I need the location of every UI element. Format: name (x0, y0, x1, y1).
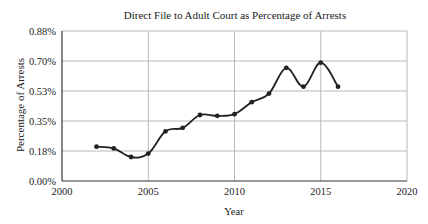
y-axis-ticks: 0.00%0.18%0.35%0.53%0.70%0.88% (29, 26, 56, 187)
x-tick-label: 2020 (397, 186, 418, 197)
x-tick-label: 2005 (138, 186, 159, 197)
data-point-marker (180, 125, 185, 130)
x-tick-label: 2015 (310, 186, 331, 197)
y-tick-label: 0.53% (29, 86, 56, 97)
y-tick-label: 0.35% (29, 116, 56, 127)
gridlines (62, 31, 407, 181)
data-point-marker (129, 155, 134, 160)
y-tick-label: 0.18% (29, 146, 56, 157)
data-point-marker (336, 84, 341, 89)
x-axis-ticks: 20002005201020152020 (52, 186, 418, 197)
data-point-marker (284, 65, 289, 70)
data-point-marker (232, 112, 237, 117)
series-line (97, 63, 339, 158)
data-point-marker (267, 91, 272, 96)
data-point-marker (249, 100, 254, 105)
data-point-marker (146, 151, 151, 156)
y-tick-label: 0.00% (29, 176, 56, 187)
y-tick-label: 0.70% (29, 56, 56, 67)
x-tick-label: 2010 (224, 186, 245, 197)
data-point-marker (163, 129, 168, 134)
data-point-marker (215, 113, 220, 118)
x-tick-label: 2000 (52, 186, 73, 197)
line-chart: 0.00%0.18%0.35%0.53%0.70%0.88% 200020052… (0, 0, 428, 224)
y-tick-label: 0.88% (29, 26, 56, 37)
data-series (94, 60, 340, 159)
data-point-marker (198, 113, 203, 118)
data-point-marker (111, 146, 116, 151)
data-point-marker (318, 60, 323, 65)
data-point-marker (94, 144, 99, 149)
data-point-marker (301, 84, 306, 89)
